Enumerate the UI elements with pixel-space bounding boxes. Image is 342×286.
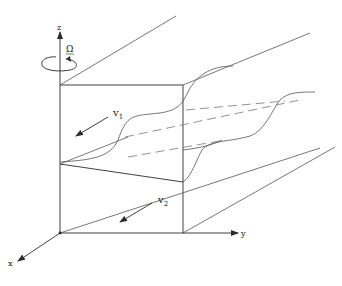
origin-point (59, 232, 62, 235)
velocity-arrow-v2 (120, 203, 152, 222)
x-axis-label: x (8, 259, 13, 268)
interface-dashed-lines (125, 100, 300, 157)
x-axis (18, 233, 60, 261)
omega-label: Ω (66, 44, 73, 54)
y-axis-label: y (240, 229, 246, 238)
velocity-arrow-v1 (76, 117, 108, 136)
v1-label: v1 (112, 107, 123, 121)
two-layer-channel-diagram: z Ω v1 v2 (0, 0, 342, 286)
z-axis-label: z (57, 23, 61, 32)
channel-front-face (60, 85, 183, 233)
channel-depth-edges (60, 16, 335, 233)
layer-interface-front (60, 137, 183, 182)
v2-label: v2 (157, 194, 168, 208)
rotation-arrow-icon (42, 56, 77, 71)
